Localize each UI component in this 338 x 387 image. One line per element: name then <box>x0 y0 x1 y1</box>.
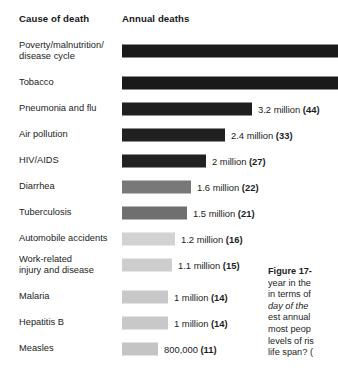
column-header-cause-of-death: Cause of death <box>19 13 89 24</box>
row-label: Poverty/malnutrition/ disease cycle <box>19 40 119 62</box>
bar-value-label: 1.5 million (21) <box>193 208 255 219</box>
chart-column-headers: Cause of death Annual deaths <box>0 13 338 29</box>
row-label: Air pollution <box>19 129 119 140</box>
bar-value-per-minute: (27) <box>249 156 266 167</box>
chart-row: Pneumonia and flu3.2 million (44) <box>0 96 338 122</box>
bar-value-per-minute: (16) <box>226 234 243 245</box>
caption-line: est annual <box>268 312 338 324</box>
column-header-annual-deaths: Annual deaths <box>122 13 189 24</box>
caption-line: levels of ris <box>268 336 338 348</box>
bar-value-amount: 3.2 million <box>258 104 300 115</box>
row-label: Diarrhea <box>19 181 119 192</box>
caption-line: Figure 17- <box>268 266 338 278</box>
bar-value-per-minute: (15) <box>223 260 240 271</box>
bar-value-amount: 1 million <box>174 292 208 303</box>
caption-line: most peop <box>268 324 338 336</box>
row-label: Hepatitis B <box>19 317 119 328</box>
chart-row: Automobile accidents1.2 million (16) <box>0 226 338 252</box>
bar-value-label: 800,000 (11) <box>164 344 217 355</box>
bar-value-amount: 1.2 million <box>181 234 223 245</box>
bar-value-amount: 1.5 million <box>193 208 235 219</box>
chart-row: HIV/AIDS2 million (27) <box>0 148 338 174</box>
caption-line: year in the <box>268 278 338 290</box>
bar-value-amount: 1.1 million <box>178 260 220 271</box>
row-label: Tobacco <box>19 77 119 88</box>
bar-value-per-minute: (21) <box>238 208 255 219</box>
bar-value-label: 3.2 million (44) <box>258 104 320 115</box>
bar-value-label: 1.2 million (16) <box>181 234 243 245</box>
bar <box>122 233 175 246</box>
bar <box>122 129 225 142</box>
bar-value-label: 2.4 million (33) <box>231 130 293 141</box>
row-label: Automobile accidents <box>19 233 119 244</box>
row-label: Measles <box>19 343 119 354</box>
bar-value-label: 2 million (27) <box>212 156 266 167</box>
bar <box>122 259 172 272</box>
bar <box>122 103 252 116</box>
row-label: Pneumonia and flu <box>19 103 119 114</box>
bar-value-per-minute: (11) <box>201 344 217 355</box>
bar-value-per-minute: (44) <box>303 104 320 115</box>
row-label: Tuberculosis <box>19 207 119 218</box>
row-label: HIV/AIDS <box>19 155 119 166</box>
bar-value-label: 1.6 million (22) <box>197 182 259 193</box>
bar-value-label: 1.1 million (15) <box>178 260 240 271</box>
caption-line: life span? ( <box>268 347 338 359</box>
bar-value-amount: 1.6 million <box>197 182 239 193</box>
chart-row: Poverty/malnutrition/ disease cycle <box>0 38 338 64</box>
bar-value-amount: 800,000 <box>164 344 198 355</box>
bar-value-per-minute: (22) <box>242 182 259 193</box>
row-label: Work-related injury and disease <box>19 254 119 276</box>
bar-value-label: 1 million (14) <box>174 318 228 329</box>
bar-value-amount: 2.4 million <box>231 130 273 141</box>
figure-caption: Figure 17-year in thein terms ofday of t… <box>268 266 338 359</box>
chart-row: Tuberculosis1.5 million (21) <box>0 200 338 226</box>
bar-value-amount: 1 million <box>174 318 208 329</box>
bar <box>122 317 168 330</box>
chart-row: Tobacco <box>0 70 338 96</box>
bar-value-amount: 2 million <box>212 156 246 167</box>
bar-value-per-minute: (14) <box>211 292 228 303</box>
bar <box>122 155 206 168</box>
row-label: Malaria <box>19 291 119 302</box>
caption-line: day of the <box>268 301 338 313</box>
chart-row: Diarrhea1.6 million (22) <box>0 174 338 200</box>
bar <box>122 207 187 220</box>
bar <box>122 45 338 58</box>
bar-value-per-minute: (33) <box>276 130 293 141</box>
bar <box>122 291 168 304</box>
bar <box>122 77 338 90</box>
bar-value-label: 1 million (14) <box>174 292 228 303</box>
annual-deaths-bar-chart: Cause of death Annual deaths Poverty/mal… <box>0 0 338 387</box>
bar-value-per-minute: (14) <box>211 318 228 329</box>
bar <box>122 343 158 356</box>
caption-line: in terms of <box>268 289 338 301</box>
bar <box>122 181 191 194</box>
chart-row: Air pollution2.4 million (33) <box>0 122 338 148</box>
